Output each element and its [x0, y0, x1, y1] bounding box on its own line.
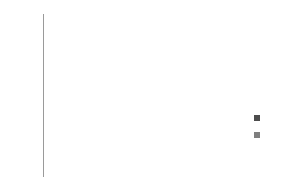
legend-swatch-ar-tool: [254, 132, 260, 138]
legend-swatch-manual: [254, 115, 260, 121]
legend-item-ar-tool: [254, 126, 263, 143]
y-axis-line: [43, 14, 44, 177]
legend-item-manual: [254, 109, 263, 126]
bar-chart: [0, 0, 297, 188]
legend: [254, 109, 263, 143]
